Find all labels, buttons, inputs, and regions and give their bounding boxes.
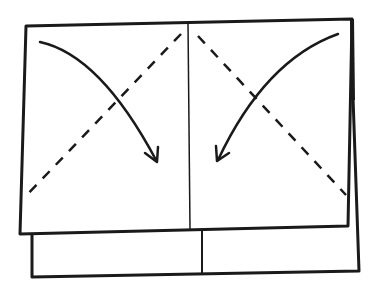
right-edge-shadow xyxy=(352,19,353,100)
diagram-canvas xyxy=(0,0,378,286)
folding-diagram xyxy=(0,0,378,286)
